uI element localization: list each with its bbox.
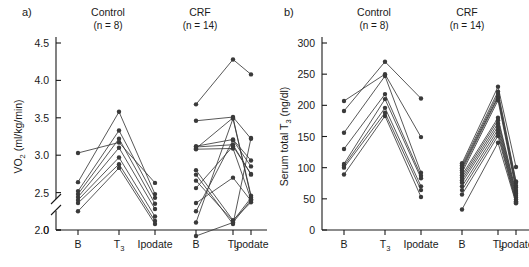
data-line — [196, 148, 251, 199]
x-tick-label: T3 — [380, 238, 391, 253]
data-point — [342, 165, 346, 169]
x-tick-label: B — [340, 238, 347, 250]
data-point — [153, 202, 157, 206]
y-tick-label: 0 — [309, 224, 315, 236]
y-tick-label: 200 — [297, 99, 315, 111]
y-tick-label: 250 — [297, 68, 315, 80]
data-point — [419, 188, 423, 192]
data-line — [78, 112, 155, 194]
data-point — [383, 106, 387, 110]
data-point — [342, 131, 346, 135]
data-point — [496, 84, 500, 88]
data-point — [496, 141, 500, 145]
panel-a: a) Control (n = 8) CRF (n = 14) 02.02.53… — [0, 0, 264, 267]
data-line — [196, 181, 251, 221]
data-line — [344, 74, 421, 137]
data-point — [514, 165, 518, 169]
data-point — [117, 128, 121, 132]
data-point — [194, 234, 198, 238]
data-point — [231, 138, 235, 142]
data-point — [249, 72, 253, 76]
y-tick-label: 2.5 — [34, 187, 49, 199]
data-line — [462, 87, 516, 167]
data-point — [194, 172, 198, 176]
data-point — [460, 207, 464, 211]
data-point — [249, 172, 253, 176]
data-line — [196, 117, 251, 139]
data-point — [383, 74, 387, 78]
data-point — [76, 209, 80, 213]
data-point — [249, 136, 253, 140]
data-point — [117, 166, 121, 170]
y-tick-label: 2.0 — [34, 224, 49, 236]
data-point — [194, 186, 198, 190]
data-point — [383, 97, 387, 101]
data-point — [496, 98, 500, 102]
data-point — [419, 176, 423, 180]
data-point — [117, 155, 121, 159]
figure-container: a) Control (n = 8) CRF (n = 14) 02.02.53… — [0, 0, 529, 267]
data-line — [196, 59, 251, 104]
data-line — [344, 94, 421, 176]
y-tick-label: 50 — [303, 193, 315, 205]
x-tick-label: Ipodate — [498, 238, 529, 250]
data-point — [231, 220, 235, 224]
data-line — [78, 139, 155, 204]
data-point — [117, 146, 121, 150]
x-tick-label: B — [74, 238, 81, 250]
data-point — [383, 60, 387, 64]
y-tick-label: 100 — [297, 162, 315, 174]
y-tick-label: 4.5 — [34, 37, 49, 49]
data-point — [342, 109, 346, 113]
data-point — [153, 196, 157, 200]
data-point — [117, 137, 121, 141]
data-point — [153, 181, 157, 185]
data-line — [344, 116, 421, 197]
data-point — [194, 209, 198, 213]
data-point — [194, 119, 198, 123]
data-point — [460, 192, 464, 196]
data-point — [419, 195, 423, 199]
panel-a-plot: 02.02.53.03.54.04.5BT3IpodateBT3IpodateV… — [0, 0, 264, 267]
y-tick-label: 4.0 — [34, 74, 49, 86]
data-point — [231, 175, 235, 179]
data-point — [231, 57, 235, 61]
data-point — [117, 162, 121, 166]
x-tick-label: Ipodate — [137, 238, 172, 250]
data-point — [249, 164, 253, 168]
data-point — [231, 116, 235, 120]
y-tick-label: 3.5 — [34, 112, 49, 124]
data-line — [196, 200, 251, 236]
data-point — [496, 134, 500, 138]
data-point — [249, 198, 253, 202]
data-point — [153, 222, 157, 226]
data-line — [344, 113, 421, 190]
data-point — [342, 99, 346, 103]
panel-b: b) Control (n = 8) CRF (n = 14) 05010015… — [264, 0, 528, 267]
data-point — [194, 168, 198, 172]
data-point — [342, 172, 346, 176]
y-tick-label: 300 — [297, 37, 315, 49]
x-tick-label: B — [192, 238, 199, 250]
data-point — [117, 110, 121, 114]
data-point — [419, 96, 423, 100]
data-point — [342, 147, 346, 151]
data-point — [76, 180, 80, 184]
x-tick-label: Ipodate — [403, 238, 438, 250]
data-point — [194, 220, 198, 224]
y-axis-title: VO2 (ml/kg/min) — [12, 99, 27, 173]
data-point — [194, 102, 198, 106]
data-point — [76, 151, 80, 155]
data-point — [194, 147, 198, 151]
y-axis-title: Serum total T3 (ng/dl) — [278, 87, 293, 187]
data-point — [383, 114, 387, 118]
panel-b-plot: 050100150200250300BT3IpodateBT3IpodateSe… — [264, 0, 528, 267]
data-point — [383, 92, 387, 96]
y-tick-label: 150 — [297, 131, 315, 143]
y-tick-label: 3.0 — [34, 149, 49, 161]
data-point — [194, 178, 198, 182]
data-point — [76, 201, 80, 205]
x-tick-label: B — [458, 238, 465, 250]
data-point — [249, 158, 253, 162]
data-point — [231, 144, 235, 148]
